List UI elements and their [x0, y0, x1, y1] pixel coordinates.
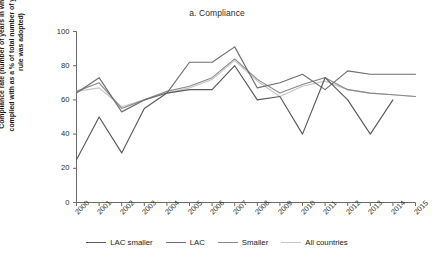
legend-item-lac-smaller[interactable]: LAC smaller	[86, 238, 152, 247]
legend-label: All countries	[305, 238, 347, 247]
legend-label: Smaller	[242, 238, 268, 247]
y-tick-label: 20	[48, 163, 70, 172]
legend-line-icon	[218, 242, 238, 243]
legend-label: LAC	[190, 238, 205, 247]
legend-item-smaller[interactable]: Smaller	[218, 238, 268, 247]
legend-item-all-countries[interactable]: All countries	[281, 238, 347, 247]
compliance-chart: a. Compliance Compliance rate (number of…	[0, 0, 434, 269]
y-tick-label: 40	[48, 129, 70, 138]
legend-line-icon	[86, 242, 106, 243]
y-tick-label: 0	[48, 198, 70, 207]
y-tick-label: 80	[48, 61, 70, 70]
legend-item-lac[interactable]: LAC	[166, 238, 205, 247]
y-tick-label: 60	[48, 95, 70, 104]
legend-line-icon	[281, 242, 301, 243]
chart-legend: LAC smallerLACSmallerAll countries	[0, 238, 434, 247]
legend-line-icon	[166, 242, 186, 243]
y-tick-label: 100	[48, 27, 70, 36]
legend-label: LAC smaller	[110, 238, 152, 247]
